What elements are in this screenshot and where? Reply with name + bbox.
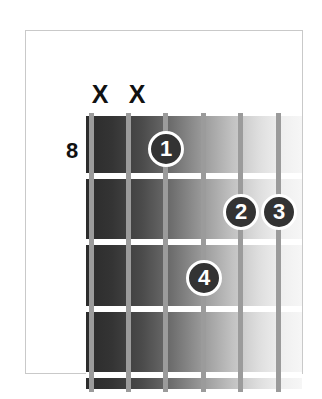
chord-diagram-card: 8 X X 1 2 3 4 — [25, 30, 303, 374]
string-marker-3 — [161, 79, 187, 109]
string-marker-5 — [236, 79, 262, 109]
finger-dot-2[interactable]: 2 — [223, 194, 259, 230]
finger-dot-3[interactable]: 3 — [261, 194, 297, 230]
start-fret-label: 8 — [60, 136, 84, 166]
fret-line-1 — [86, 173, 302, 179]
string-marker-1: X — [87, 79, 113, 109]
chord-diagram-page: 8 X X 1 2 3 4 — [0, 0, 322, 399]
string-marker-2: X — [124, 79, 150, 109]
string-line-5 — [238, 113, 243, 392]
string-marker-4 — [199, 79, 225, 109]
finger-dot-4[interactable]: 4 — [186, 260, 222, 296]
finger-dot-1[interactable]: 1 — [148, 131, 184, 167]
fret-line-2 — [86, 239, 302, 245]
fret-line-4 — [86, 372, 302, 378]
fretboard: 1 2 3 4 — [86, 116, 302, 389]
string-line-2 — [126, 113, 131, 392]
string-marker-6 — [274, 79, 300, 109]
string-line-4 — [201, 113, 206, 392]
fret-line-3 — [86, 306, 302, 312]
string-marker-row: X X — [73, 79, 313, 109]
string-line-1 — [89, 113, 94, 392]
string-line-6 — [276, 113, 281, 392]
